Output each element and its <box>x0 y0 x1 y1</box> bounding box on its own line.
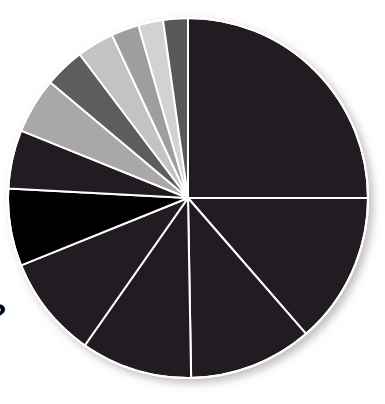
cut-off-chart-title: o? <box>0 299 7 329</box>
pie-slices-group <box>8 18 368 378</box>
pie-chart-figure: o? <box>0 0 385 404</box>
pie-chart-svg <box>0 0 385 404</box>
pie-slice[interactable] <box>188 18 368 198</box>
